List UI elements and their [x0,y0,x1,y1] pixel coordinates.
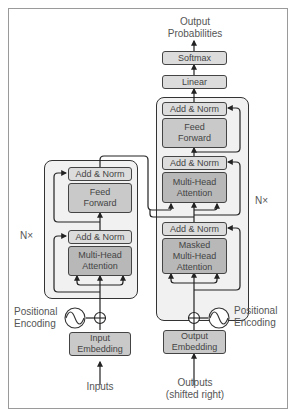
linear-label: Linear [182,77,207,88]
pe-enc-line2: Encoding [14,318,56,329]
output-line2: Probabilities [168,28,222,39]
connection-arrows [0,0,298,418]
ca-line1: Multi-Head [173,177,217,188]
output-label: Output Probabilities [160,16,230,40]
add-circle-decoder [189,313,200,324]
ma-line2: Multi-Head [173,251,217,262]
outputs-line2: (shifted right) [166,389,224,400]
decoder-positional-encoding: Positional Encoding [234,305,277,329]
decoder-masked-attention: MaskedMulti-HeadAttention [162,238,227,274]
encoder-nx-label: N× [20,230,33,242]
decoder-add-norm-top: Add & Norm [162,102,227,116]
decoder-nx-label: N× [255,195,268,207]
encoder-add-norm-top-label: Add & Norm [75,169,124,180]
decoder-input-label: Outputs (shifted right) [155,377,235,401]
ff-line2: Forward [178,133,211,144]
linear-box: Linear [162,75,227,89]
pe-enc-line1: Positional [14,306,57,317]
decoder-add-norm-bottom: Add & Norm [162,222,227,236]
encoder-input-label: Inputs [80,381,120,393]
ea-line1: Multi-Head [78,250,122,261]
decoder-add-norm-top-label: Add & Norm [170,104,219,115]
softmax-label: Softmax [178,53,211,64]
pe-dec-line2: Encoding [234,317,276,328]
decoder-add-norm-mid: Add & Norm [162,156,227,170]
outputs-line1: Outputs [177,377,212,388]
ie-line1: Input [90,333,110,344]
ma-line1: Masked [179,240,211,251]
decoder-cross-attention: Multi-HeadAttention [162,172,227,203]
output-line1: Output [180,16,210,27]
encoder-feed-forward: FeedForward [68,183,132,213]
decoder-add-norm-bottom-label: Add & Norm [170,224,219,235]
encoder-add-norm-bottom-label: Add & Norm [75,232,124,243]
ea-line2: Attention [82,261,118,272]
ma-line3: Attention [177,262,213,273]
eff-line1: Feed [90,187,111,198]
ca-line2: Attention [177,188,213,199]
encoder-add-norm-bottom: Add & Norm [68,230,132,244]
ff-line1: Feed [184,122,205,133]
ie-line2: Embedding [77,344,123,355]
decoder-feed-forward: FeedForward [162,118,227,148]
encoder-positional-encoding: Positional Encoding [14,306,57,330]
oe-line2: Embedding [172,342,218,353]
softmax-box: Softmax [162,51,227,65]
output-embedding: OutputEmbedding [163,330,226,354]
oe-line1: Output [181,331,208,342]
pe-dec-line1: Positional [234,305,277,316]
encoder-add-norm-top: Add & Norm [68,167,132,181]
eff-line2: Forward [83,198,116,209]
decoder-add-norm-mid-label: Add & Norm [170,158,219,169]
encoder-attention: Multi-HeadAttention [68,246,132,276]
input-embedding: InputEmbedding [69,332,131,356]
add-circle-encoder [95,313,106,324]
